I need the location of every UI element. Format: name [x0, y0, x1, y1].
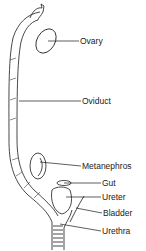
label-bladder: Bladder [103, 209, 132, 218]
label-ureter: Ureter [102, 193, 126, 202]
oviduct-inner-wall [17, 20, 58, 216]
label-oviduct: Oviduct [82, 97, 111, 106]
label-urethra: Urethra [102, 227, 130, 236]
metanephros-shape [30, 153, 46, 179]
oviduct-outer-wall [9, 12, 52, 250]
label-ovary: Ovary [80, 37, 103, 46]
label-metanephros: Metanephros [82, 162, 132, 171]
label-gut: Gut [102, 179, 116, 188]
infundibulum [30, 4, 44, 20]
bladder-shape [51, 187, 71, 214]
